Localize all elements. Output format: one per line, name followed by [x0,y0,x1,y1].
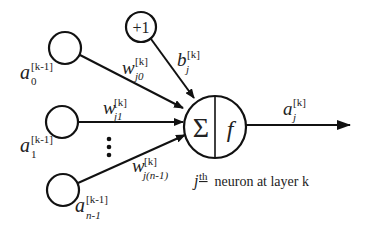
svg-text:a: a [20,61,30,83]
svg-text:[k-1]: [k-1] [31,133,53,145]
ellipsis-dot [107,153,112,158]
label-bias-weight: b j [k] [177,48,200,75]
svg-text:[k-1]: [k-1] [31,60,53,72]
svg-text:[k]: [k] [135,55,148,67]
svg-text:1: 1 [31,148,37,160]
svg-text:j0: j0 [133,70,144,82]
svg-text:neuron at layer k: neuron at layer k [211,174,309,189]
svg-text:a: a [283,98,293,119]
svg-text:[k]: [k] [187,48,200,60]
svg-text:[k]: [k] [293,96,306,108]
label-weight-0: w j0 [k] [122,55,148,82]
svg-text:n-1: n-1 [86,209,101,221]
svg-text:a: a [75,194,85,216]
svg-text:a: a [20,134,30,156]
svg-text:j: j [192,172,199,190]
neuron-diagram: +1 Σ f a 0 [k-1] a 1 [k-1] a n-1 [k-1] w… [0,0,365,226]
bias-node-label: +1 [132,19,149,36]
label-input-n-1: a n-1 [k-1] [75,193,108,221]
svg-text:w: w [122,57,135,78]
label-input-1: a 1 [k-1] [20,133,53,160]
label-weight-n-1: w j(n-1) [k] [132,155,168,182]
label-weight-1: w j1 [k] [103,96,127,122]
input-node-0 [49,32,81,64]
svg-text:j(n-1): j(n-1) [141,169,168,182]
ellipsis-dot [107,145,112,150]
sum-symbol: Σ [193,112,209,143]
label-output: a j [k] [283,96,306,123]
svg-text:[k]: [k] [114,96,127,108]
svg-text:[k]: [k] [144,155,157,167]
svg-text:[k-1]: [k-1] [86,193,108,205]
label-input-0: a 0 [k-1] [20,60,53,87]
ellipsis-dot [107,137,112,142]
svg-text:0: 0 [31,75,37,87]
caption: j th neuron at layer k [192,170,309,190]
activation-symbol: f [227,116,237,142]
svg-text:j1: j1 [112,110,123,122]
svg-text:th: th [199,170,208,182]
